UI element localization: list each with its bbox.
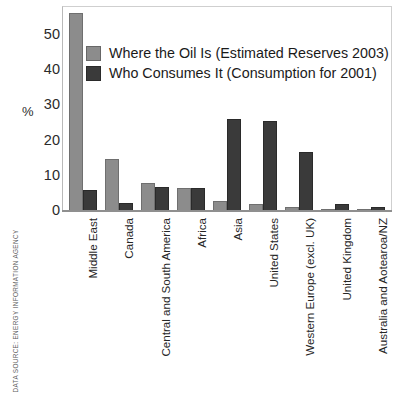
oil-reserves-vs-consumption-chart: DATA SOURCE: ENERGY INFORMATION AGENCY %… — [0, 0, 403, 411]
bar-group — [245, 7, 281, 211]
bar-consumption — [191, 188, 205, 211]
y-axis-tick-20: 20 — [14, 133, 60, 148]
legend-swatch-consumption — [86, 66, 101, 81]
bar-group — [353, 7, 389, 211]
x-axis-baseline — [62, 210, 392, 212]
x-label-cell: Middle East — [64, 214, 100, 404]
y-axis-tick-0: 0 — [14, 203, 60, 218]
x-label-cell: Canada — [100, 214, 136, 404]
legend-item-reserves: Where the Oil Is (Estimated Reserves 200… — [86, 45, 389, 61]
bar-group — [281, 7, 317, 211]
bar-consumption — [83, 190, 97, 211]
y-axis-tick-50: 50 — [14, 27, 60, 42]
bar-group — [317, 7, 353, 211]
bar-reserves — [69, 13, 83, 211]
x-axis-category-labels: Middle EastCanadaCentral and South Ameri… — [62, 214, 392, 404]
x-axis-label: Asia — [232, 218, 244, 241]
legend-swatch-reserves — [86, 46, 101, 61]
bar-group — [65, 7, 101, 211]
bar-consumption — [263, 121, 277, 211]
x-axis-label: Australia and Aotearoa/NZ — [377, 218, 389, 354]
y-axis-tick-10: 10 — [14, 168, 60, 183]
plot-area — [62, 6, 392, 212]
bar-group — [173, 7, 209, 211]
x-label-cell: Africa — [173, 214, 209, 404]
x-label-cell: Australia and Aotearoa/NZ — [354, 214, 390, 404]
bar-reserves — [177, 188, 191, 211]
bar-consumption — [155, 187, 169, 211]
legend-label-reserves: Where the Oil Is (Estimated Reserves 200… — [109, 45, 389, 61]
bar-reserves — [141, 183, 155, 211]
legend-label-consumption: Who Consumes It (Consumption for 2001) — [109, 65, 377, 81]
y-axis-tick-40: 40 — [14, 62, 60, 77]
bar-group — [101, 7, 137, 211]
bar-consumption — [227, 119, 241, 211]
x-label-cell: United States — [245, 214, 281, 404]
chart-legend: Where the Oil Is (Estimated Reserves 200… — [86, 45, 389, 81]
bar-group — [209, 7, 245, 211]
x-label-cell: United Kingdom — [318, 214, 354, 404]
x-axis-label: Western Europe (excl. UK) — [304, 218, 316, 356]
bar-reserves — [105, 159, 119, 211]
x-axis-label: Africa — [196, 218, 208, 248]
x-axis-label: United States — [268, 218, 280, 288]
x-axis-label: Middle East — [87, 218, 99, 279]
x-label-cell: Asia — [209, 214, 245, 404]
legend-item-consumption: Who Consumes It (Consumption for 2001) — [86, 65, 389, 81]
x-label-cell: Western Europe (excl. UK) — [281, 214, 317, 404]
bar-groups — [63, 7, 391, 211]
bar-consumption — [299, 152, 313, 211]
y-axis-ticks: 01020304050 — [10, 0, 60, 411]
x-axis-label: Central and South America — [160, 218, 172, 357]
y-axis-tick-30: 30 — [14, 97, 60, 112]
x-label-cell: Central and South America — [136, 214, 172, 404]
x-axis-label: Canada — [123, 218, 135, 259]
bar-group — [137, 7, 173, 211]
x-axis-label: United Kingdom — [341, 218, 353, 301]
